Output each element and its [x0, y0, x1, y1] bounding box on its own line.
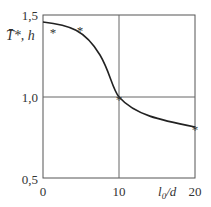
x-axis-label: l0/d: [158, 184, 177, 201]
svg-text:*: *: [77, 23, 84, 38]
ytick-top: 1,5: [22, 8, 38, 23]
svg-text:*: *: [50, 25, 57, 40]
xtick-10: 10: [113, 184, 126, 199]
svg-text:*: *: [116, 92, 123, 107]
y-axis-label: T̄*, h: [6, 28, 35, 43]
ytick-mid: 1,0: [22, 90, 38, 105]
markers: ****: [50, 23, 199, 137]
ytick-bot: 0,5: [22, 172, 38, 187]
xtick-0: 0: [40, 184, 47, 199]
svg-text:*: *: [192, 122, 199, 137]
chart: **** 1,5 1,0 0,5 T̄*, h 0 10 20 l0/d: [0, 0, 211, 207]
xtick-20: 20: [189, 184, 202, 199]
